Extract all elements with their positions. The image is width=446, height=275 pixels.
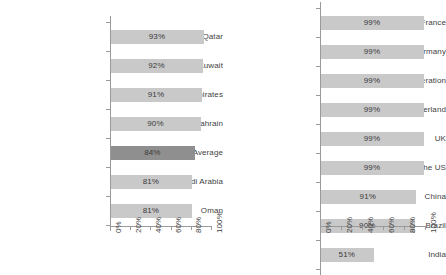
y-axis-tick	[316, 66, 320, 67]
x-axis-tick	[341, 226, 342, 230]
bar-row: The US99%	[223, 153, 446, 182]
x-axis-tick	[362, 226, 363, 230]
x-axis-tick-label: 0%	[324, 221, 333, 233]
bar-row: UK99%	[223, 124, 446, 153]
x-axis-tick	[130, 226, 131, 230]
bar-track: 93%	[110, 22, 223, 51]
plot-area-world: France99%Germany99%Russian Federation99%…	[223, 0, 446, 264]
y-axis-tick	[316, 269, 320, 270]
x-axis-tick	[211, 226, 212, 230]
bar-track: 99%	[320, 66, 446, 95]
y-axis-tick	[316, 182, 320, 183]
bar-row: France99%	[223, 8, 446, 37]
bar-row: Saudi Arabia81%	[0, 167, 223, 196]
bar-track: 99%	[320, 37, 446, 66]
y-axis-tick	[316, 8, 320, 9]
bar-value-label: 90%	[110, 117, 201, 131]
bar-row: India51%	[223, 240, 446, 269]
bar-row: Bahrain90%	[0, 109, 223, 138]
x-axis-tick-label: 60%	[387, 217, 396, 233]
bar-value-label: 99%	[320, 161, 424, 175]
bar-value-label: 81%	[110, 204, 192, 218]
x-axis-tick-label: 40%	[366, 217, 375, 233]
y-axis-tick	[106, 51, 110, 52]
bar-rows: Qatar93%Kuwait92%United Arab Emirates91%…	[0, 22, 223, 225]
bar-track: 91%	[320, 182, 446, 211]
bar-row: Qatar93%	[0, 22, 223, 51]
bar-value-label: 92%	[110, 59, 203, 73]
x-axis-tick	[150, 226, 151, 230]
bar-row: Switzerland99%	[223, 95, 446, 124]
x-axis-tick	[110, 226, 111, 230]
bar-value-label: 84%	[110, 146, 195, 160]
chart-panel-world: France99%Germany99%Russian Federation99%…	[223, 0, 446, 264]
bar-value-label: 91%	[320, 190, 416, 204]
bar-track: 99%	[320, 8, 446, 37]
y-axis-tick	[106, 80, 110, 81]
y-axis-tick	[316, 211, 320, 212]
x-axis-tick-label: 80%	[408, 217, 417, 233]
bar-row: United Arab Emirates91%	[0, 80, 223, 109]
bar-value-label: 99%	[320, 74, 424, 88]
y-axis-tick	[106, 22, 110, 23]
bar-row: Oman81%	[0, 196, 223, 225]
bar-value-label: 91%	[110, 88, 202, 102]
bar-value-label: 81%	[110, 175, 192, 189]
x-axis-tick	[404, 226, 405, 230]
bar-row: GCC Average84%	[0, 138, 223, 167]
y-axis-tick	[316, 124, 320, 125]
x-axis-tick-label: 100%	[429, 212, 438, 233]
bar-value-label: 99%	[320, 45, 424, 59]
y-axis-tick	[316, 240, 320, 241]
bar-track: 99%	[320, 95, 446, 124]
bar-row: Germany99%	[223, 37, 446, 66]
x-axis-tick-label: 60%	[174, 217, 183, 233]
bar-track: 90%	[110, 109, 223, 138]
x-axis-tick	[383, 226, 384, 230]
chart-panel-gcc: Qatar93%Kuwait92%United Arab Emirates91%…	[0, 0, 223, 264]
bar-track: 99%	[320, 153, 446, 182]
y-axis-tick	[316, 37, 320, 38]
x-axis-tick-label: 0%	[114, 221, 123, 233]
x-axis-tick	[320, 226, 321, 230]
bar-row: Russian Federation99%	[223, 66, 446, 95]
x-axis-tick-label: 40%	[154, 217, 163, 233]
bar-value-label: 99%	[320, 103, 424, 117]
bar-value-label: 99%	[320, 16, 424, 30]
x-axis-tick	[171, 226, 172, 230]
y-axis-tick	[106, 167, 110, 168]
bar-track: 81%	[110, 196, 223, 225]
bar-row: China91%	[223, 182, 446, 211]
bar-value-label: 99%	[320, 132, 424, 146]
bar-track: 51%	[320, 240, 446, 269]
bar-track: 92%	[110, 51, 223, 80]
x-axis-tick-label: 20%	[134, 217, 143, 233]
y-axis-tick	[316, 153, 320, 154]
x-axis-tick	[425, 226, 426, 230]
bar-track: 91%	[110, 80, 223, 109]
plot-area-gcc: Qatar93%Kuwait92%United Arab Emirates91%…	[0, 0, 223, 264]
y-axis-tick	[106, 138, 110, 139]
bar-value-label: 51%	[320, 248, 374, 262]
x-axis-tick-label: 80%	[194, 217, 203, 233]
x-axis-tick-label: 20%	[345, 217, 354, 233]
y-axis-spine	[110, 16, 111, 231]
bar-track: 84%	[110, 138, 223, 167]
x-axis-tick	[191, 226, 192, 230]
y-axis-tick	[106, 109, 110, 110]
bar-track: 99%	[320, 124, 446, 153]
bar-value-label: 93%	[110, 30, 204, 44]
bar-row: Kuwait92%	[0, 51, 223, 80]
y-axis-tick	[316, 95, 320, 96]
y-axis-spine	[320, 2, 321, 275]
bar-track: 81%	[110, 167, 223, 196]
y-axis-tick	[106, 196, 110, 197]
